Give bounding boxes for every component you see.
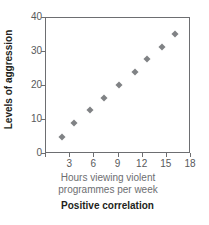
x-axis-tick-mark (45, 153, 46, 157)
data-point (131, 69, 138, 76)
x-axis-title: Hours viewing violent programmes per wee… (28, 172, 188, 196)
x-axis-tick-labels: 369121518 (0, 158, 209, 170)
x-axis-tick-label: 9 (108, 158, 128, 169)
x-axis-tick-mark (190, 153, 191, 157)
x-axis-title-line-1: Hours viewing violent (28, 172, 188, 184)
x-axis-tick-label: 6 (83, 158, 103, 169)
y-axis-tick-mark (41, 85, 45, 86)
data-point (158, 43, 165, 50)
y-axis-tick-label: 40 (20, 12, 42, 22)
chart-caption: Positive correlation (20, 200, 195, 211)
x-axis-tick-mark (118, 153, 119, 157)
y-axis-tick-label: 30 (20, 46, 42, 56)
data-point (100, 94, 107, 101)
y-axis-tick-label: 0 (20, 148, 42, 158)
data-point (86, 106, 93, 113)
x-axis-tick-mark (142, 153, 143, 157)
x-axis-title-line-2: programmes per week (28, 184, 188, 196)
x-axis-tick-label: 12 (132, 158, 152, 169)
plot-area (45, 17, 190, 153)
y-axis-tick-mark (41, 119, 45, 120)
scatter-series (46, 18, 189, 152)
x-axis-tick-label: 15 (156, 158, 176, 169)
x-axis-tick-label: 3 (59, 158, 79, 169)
x-axis-tick-mark (166, 153, 167, 157)
data-point (71, 120, 78, 127)
data-point (115, 82, 122, 89)
y-axis-tick-mark (41, 51, 45, 52)
y-axis-tick-label: 20 (20, 80, 42, 90)
y-axis-tick-label: 10 (20, 114, 42, 124)
y-axis-title: Levels of aggression (0, 0, 18, 158)
y-axis-title-text: Levels of aggression (4, 29, 15, 128)
x-axis-tick-mark (69, 153, 70, 157)
x-axis-tick-mark (93, 153, 94, 157)
chart-figure: Levels of aggression 010203040 369121518… (0, 0, 209, 225)
x-axis-tick-label: 18 (180, 158, 200, 169)
data-point (143, 56, 150, 63)
data-point (59, 133, 66, 140)
y-axis-tick-mark (41, 17, 45, 18)
data-point (171, 31, 178, 38)
